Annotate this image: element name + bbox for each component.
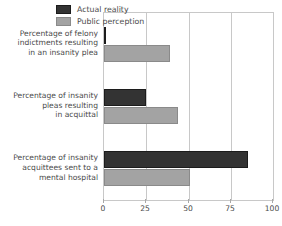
plot-area bbox=[103, 12, 274, 201]
chart-legend: Actual realityPublic perception bbox=[56, 4, 166, 28]
category-label-0: Percentage of felonyindictments resultin… bbox=[0, 29, 98, 58]
legend-item-0[interactable]: Actual reality bbox=[56, 4, 166, 15]
category-label-2: Percentage of insanityacquittees sent to… bbox=[0, 153, 98, 182]
category-label-line: Percentage of insanity bbox=[0, 153, 98, 163]
category-label-line: in acquittal bbox=[0, 110, 98, 120]
category-label-line: Percentage of felony bbox=[0, 29, 98, 39]
tick-mark-25 bbox=[145, 199, 146, 203]
bar-public-perception-2 bbox=[104, 169, 190, 186]
x-tick-label-75: 75 bbox=[225, 204, 235, 214]
category-label-line: Percentage of insanity bbox=[0, 91, 98, 101]
legend-label: Actual reality bbox=[77, 5, 129, 14]
category-label-line: in an insanity plea bbox=[0, 48, 98, 58]
category-label-1: Percentage of insanitypleas resultingin … bbox=[0, 91, 98, 120]
bar-public-perception-1 bbox=[104, 107, 178, 124]
tick-mark-75 bbox=[230, 199, 231, 203]
tick-mark-100 bbox=[272, 199, 273, 203]
category-label-line: indictments resulting bbox=[0, 38, 98, 48]
legend-swatch-icon bbox=[56, 5, 71, 14]
x-tick-label-0: 0 bbox=[101, 204, 106, 214]
tick-mark-0 bbox=[103, 199, 104, 203]
x-tick-label-25: 25 bbox=[140, 204, 150, 214]
bar-chart: Percentage of felonyindictments resultin… bbox=[0, 0, 282, 226]
bar-actual-reality-0 bbox=[104, 27, 106, 44]
x-tick-label-100: 100 bbox=[265, 204, 280, 214]
bars-layer bbox=[104, 13, 273, 200]
legend-item-1[interactable]: Public perception bbox=[56, 16, 166, 27]
legend-label: Public perception bbox=[77, 17, 144, 26]
category-label-line: acquittees sent to a bbox=[0, 163, 98, 173]
bar-actual-reality-2 bbox=[104, 151, 248, 168]
category-axis-labels: Percentage of felonyindictments resultin… bbox=[0, 12, 101, 199]
tick-mark-50 bbox=[188, 199, 189, 203]
bar-actual-reality-1 bbox=[104, 89, 146, 106]
gridline-100 bbox=[273, 13, 274, 200]
bar-public-perception-0 bbox=[104, 45, 170, 62]
x-tick-label-50: 50 bbox=[183, 204, 193, 214]
legend-swatch-icon bbox=[56, 17, 71, 26]
category-label-line: mental hospital bbox=[0, 173, 98, 183]
x-axis-tick-labels: 0255075100 bbox=[103, 204, 272, 218]
category-label-line: pleas resulting bbox=[0, 101, 98, 111]
